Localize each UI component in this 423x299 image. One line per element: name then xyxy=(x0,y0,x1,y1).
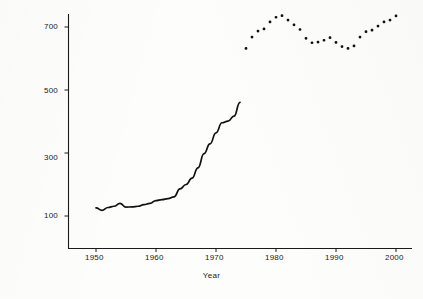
x-tick-label-1980: 1980 xyxy=(265,253,284,262)
x-tick-label-2000: 2000 xyxy=(385,253,404,262)
x-tick-label-1960: 1960 xyxy=(145,253,164,262)
solid-line-series xyxy=(96,102,240,210)
x-tick-label-1970: 1970 xyxy=(205,253,224,262)
y-tick-label-100: 100 xyxy=(44,211,58,220)
x-tick-label-1950: 1950 xyxy=(85,253,104,262)
x-tick-label-1990: 1990 xyxy=(325,253,344,262)
y-tick-label-500: 500 xyxy=(44,86,58,95)
dotted-marker-series xyxy=(245,14,398,49)
y-tick-label-700: 700 xyxy=(44,22,58,31)
y-tick-label-300: 300 xyxy=(44,153,58,162)
x-axis-title: Year xyxy=(0,271,423,280)
violent-crime-rate-chart: 700 500 300 100 1950 1960 1970 1980 1990… xyxy=(0,0,423,299)
